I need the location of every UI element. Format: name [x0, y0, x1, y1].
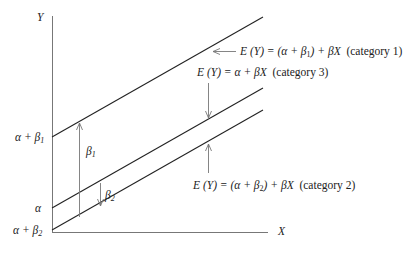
y-axis-label: Y — [37, 12, 43, 24]
beta1-label: β1 — [86, 146, 96, 158]
equation-category-2: E (Y) = (α + β2) + βX (category 2) — [193, 180, 355, 192]
equation-category-1: E (Y) = (α + β1) + βX (category 1) — [240, 46, 402, 58]
tick-alpha-plus-beta1: α + β1 — [15, 132, 44, 144]
x-axis-label: X — [278, 226, 285, 238]
line-category-2 — [52, 110, 263, 230]
equation-category-3: E (Y) = α + βX (category 3) — [197, 67, 328, 79]
beta2-label: β2 — [105, 190, 115, 202]
tick-alpha-plus-beta2: α + β2 — [13, 225, 42, 237]
tick-alpha: α — [35, 203, 41, 215]
diagram-canvas — [0, 0, 414, 253]
